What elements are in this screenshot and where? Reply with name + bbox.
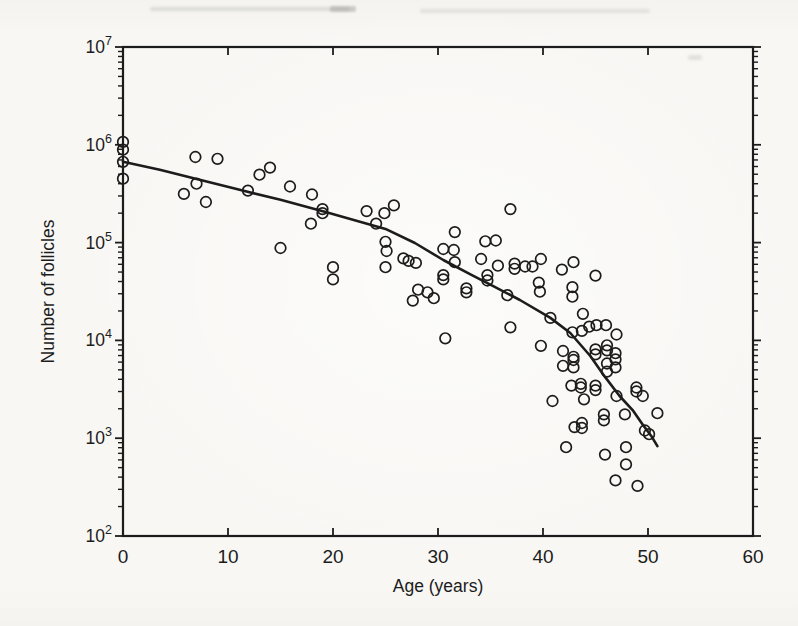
data-point [600,449,611,460]
data-point [610,475,621,486]
x-tick-label: 30 [427,546,448,567]
data-point [505,204,516,215]
data-point [505,322,516,333]
data-point [557,264,568,275]
data-point [652,408,663,419]
data-point [620,409,631,420]
data-point [547,396,558,407]
axis-tick-labels: 0102030405060107106105104103102 [86,34,764,567]
data-point [621,442,632,453]
data-point [536,254,547,265]
data-point [408,295,419,306]
y-tick-label: 105 [86,230,112,253]
model-fit-curve [123,162,657,446]
data-point [480,236,491,247]
data-point [190,152,201,163]
x-tick-label: 50 [637,546,658,567]
scatter-points [118,137,663,492]
data-point [579,394,590,405]
data-point [212,154,223,165]
data-point [558,346,569,357]
data-point [285,181,296,192]
data-point [265,162,276,173]
data-point [361,206,372,217]
data-point [429,293,440,304]
data-point [307,189,318,200]
x-tick-label: 10 [217,546,238,567]
data-point [578,309,589,320]
axis-ticks [115,47,761,536]
y-tick-label: 106 [86,132,112,155]
data-point [476,254,487,265]
data-point [411,258,422,269]
follicles-vs-age-chart: 0102030405060107106105104103102 Age (yea… [0,0,798,626]
axis-frame [123,47,753,536]
data-point [632,481,643,492]
data-point [379,208,390,219]
y-axis-title: Number of follicles [38,219,58,363]
data-point [201,197,212,208]
fit-curve-path [123,162,657,446]
data-point [389,200,400,211]
data-point [558,361,569,372]
y-tick-label: 102 [86,523,112,546]
x-axis-title: Age (years) [393,576,483,596]
x-tick-label: 40 [532,546,553,567]
data-point [254,169,265,180]
data-point [493,260,504,271]
data-point [611,329,622,340]
data-point [440,333,451,344]
data-point [306,218,317,229]
x-tick-label: 20 [322,546,343,567]
data-point [602,366,613,377]
data-point [590,270,601,281]
data-point [536,341,547,352]
data-point [568,362,579,373]
x-tick-label: 0 [118,546,129,567]
plot-frame [123,47,753,536]
data-point [491,235,502,246]
y-tick-label: 104 [86,327,112,350]
y-tick-label: 103 [86,425,112,448]
chart-canvas: 0102030405060107106105104103102 Age (yea… [0,0,798,626]
data-point [568,257,579,268]
data-point [328,274,339,285]
data-point [179,189,190,200]
data-point [621,459,632,470]
y-tick-label: 107 [86,34,112,57]
data-point [450,227,461,238]
data-point [438,244,449,255]
data-point [275,243,286,254]
data-point [328,262,339,273]
data-point [422,287,433,298]
data-point [380,262,391,273]
data-point [449,245,460,256]
data-point [561,442,572,453]
x-tick-label: 60 [742,546,763,567]
